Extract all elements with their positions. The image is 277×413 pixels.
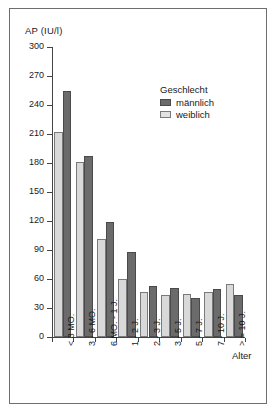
legend-entries: männlichweiblich xyxy=(160,97,214,120)
y-tick-mark xyxy=(47,134,52,135)
y-axis-spine xyxy=(52,47,53,338)
bar-weiblich xyxy=(76,162,85,337)
x-category-label: 1 - 2 J. xyxy=(131,318,140,346)
legend: Geschlecht männlichweiblich xyxy=(160,84,214,120)
y-tick-mark xyxy=(47,192,52,193)
legend-label: männlich xyxy=(176,97,214,108)
legend-title: Geschlecht xyxy=(160,84,214,95)
y-tick-mark xyxy=(47,221,52,222)
y-tick-label: 90 xyxy=(18,245,44,254)
chart-figure: AP (IU/l) 0306090120150180210240270300 <… xyxy=(0,0,277,413)
x-category-label: < 3 MO. xyxy=(67,314,76,346)
bar-weiblich xyxy=(97,239,106,337)
legend-item: weiblich xyxy=(160,109,214,120)
x-category-label: 7 - 10 J. xyxy=(217,313,226,346)
y-tick-mark xyxy=(47,250,52,251)
y-tick-label: 210 xyxy=(18,129,44,138)
y-tick-label: 150 xyxy=(18,187,44,196)
legend-label: weiblich xyxy=(176,109,210,120)
bar-maennlich xyxy=(63,91,72,338)
x-category-label: 5 - 7 J. xyxy=(195,318,204,346)
legend-swatch-male xyxy=(160,99,171,106)
x-category-label: 3 - 6 MO. xyxy=(88,308,97,346)
x-category-label: 3 - 5 J. xyxy=(174,318,183,346)
legend-swatch-female xyxy=(160,111,171,118)
x-category-label: 2 - 3 J. xyxy=(153,318,162,346)
y-tick-mark xyxy=(47,308,52,309)
bar-weiblich xyxy=(183,294,192,338)
y-tick-mark xyxy=(47,279,52,280)
bar-weiblich xyxy=(54,132,63,337)
bar-weiblich xyxy=(161,295,170,337)
y-tick-label: 0 xyxy=(18,332,44,341)
x-tick-mark xyxy=(52,338,53,342)
x-category-label: > = 10 J. xyxy=(238,311,247,346)
bar-weiblich xyxy=(118,279,127,337)
y-tick-label: 300 xyxy=(18,42,44,51)
legend-item: männlich xyxy=(160,97,214,108)
y-tick-label: 240 xyxy=(18,100,44,109)
bar-weiblich xyxy=(226,284,235,337)
bar-weiblich xyxy=(140,292,149,337)
y-tick-mark xyxy=(47,47,52,48)
bar-weiblich xyxy=(204,292,213,337)
x-category-label: 6 MO. - 1 J. xyxy=(110,299,119,346)
y-tick-label: 270 xyxy=(18,71,44,80)
y-tick-mark xyxy=(47,105,52,106)
y-tick-mark xyxy=(47,76,52,77)
y-tick-label: 30 xyxy=(18,303,44,312)
y-tick-mark xyxy=(47,163,52,164)
y-tick-label: 60 xyxy=(18,274,44,283)
y-tick-label: 120 xyxy=(18,216,44,225)
y-tick-label: 180 xyxy=(18,158,44,167)
x-axis-title: Alter xyxy=(232,350,252,361)
